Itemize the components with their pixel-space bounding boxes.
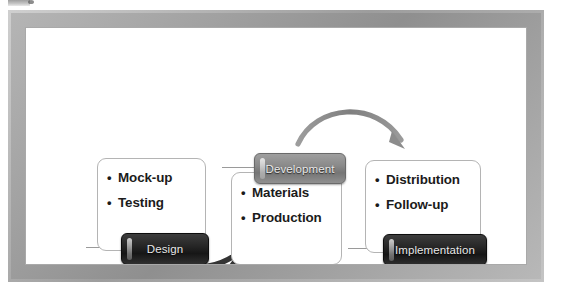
- screenshot-root: •Mock-up •Testing •Materials •Production: [0, 0, 561, 292]
- list-item: •Distribution: [375, 173, 480, 186]
- list-item-label: Mock-up: [118, 170, 172, 185]
- bullet-icon: •: [241, 211, 252, 224]
- list-item: •Follow-up: [375, 198, 480, 211]
- list-item: •Mock-up: [107, 171, 205, 184]
- arrow-development-to-implementation: [298, 112, 405, 149]
- badge-highlight: [389, 239, 394, 261]
- list-item: •Testing: [107, 196, 205, 209]
- scan-artifact-dot: [28, 0, 34, 4]
- list-item-label: Testing: [118, 195, 164, 210]
- badge-highlight: [260, 158, 265, 179]
- stage-badge-label: Development: [266, 163, 335, 175]
- stage-badge-label: Design: [147, 243, 183, 255]
- diagram-canvas: •Mock-up •Testing •Materials •Production: [26, 28, 526, 264]
- list-item-label: Production: [252, 210, 322, 225]
- bullet-icon: •: [107, 171, 118, 184]
- scan-artifact: [8, 0, 30, 6]
- bullet-icon: •: [107, 196, 118, 209]
- stage-item-list: •Distribution •Follow-up: [366, 161, 480, 212]
- list-item: •Production: [241, 211, 341, 224]
- list-item-label: Materials: [252, 185, 309, 200]
- stage-badge-implementation[interactable]: Implementation: [383, 234, 487, 264]
- stage-badge-design[interactable]: Design: [121, 233, 209, 264]
- stage-badge-development[interactable]: Development: [254, 153, 346, 184]
- bullet-icon: •: [375, 198, 386, 211]
- badge-highlight: [127, 238, 132, 260]
- stage-badge-label: Implementation: [395, 244, 475, 256]
- stage-item-list: •Mock-up •Testing: [98, 159, 205, 210]
- bullet-icon: •: [375, 173, 386, 186]
- picture-frame: •Mock-up •Testing •Materials •Production: [8, 10, 544, 282]
- list-item-label: Distribution: [386, 172, 460, 187]
- bullet-icon: •: [241, 186, 252, 199]
- list-item: •Materials: [241, 186, 341, 199]
- list-item-label: Follow-up: [386, 197, 448, 212]
- stage-card-development[interactable]: •Materials •Production: [231, 172, 342, 264]
